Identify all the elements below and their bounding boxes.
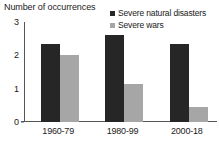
legend-swatch-severe-natural-disasters (110, 11, 115, 16)
x-tick-label: 1980-99 (88, 126, 152, 136)
bar-group (88, 22, 152, 122)
x-axis-labels: 1960-791980-992000-18 (24, 126, 217, 136)
legend-item-severe-natural-disasters: Severe natural disasters (110, 9, 206, 18)
bar (60, 55, 79, 122)
bar (41, 44, 60, 122)
x-tick-label: 1960-79 (24, 126, 88, 136)
bar (105, 35, 124, 122)
x-tick-label: 2000-18 (153, 126, 217, 136)
bar (170, 44, 189, 122)
bar-group (24, 22, 88, 122)
x-tick-label-text: 1960-79 (42, 126, 74, 136)
plot-area: 0123 (24, 22, 217, 122)
bar (124, 84, 143, 122)
x-tick-label-text: 2000-18 (171, 126, 203, 136)
bar-group (153, 22, 217, 122)
bar (189, 107, 208, 122)
y-tick-label: 2 (14, 50, 19, 60)
bar-chart: Number of occurrences Severe natural dis… (0, 0, 219, 142)
y-tick-label: 3 (14, 17, 19, 27)
x-tick-label-text: 1980-99 (107, 126, 139, 136)
y-axis-title: Number of occurrences (4, 2, 95, 12)
bar-groups (24, 22, 217, 122)
y-tick-label: 0 (14, 117, 19, 127)
y-tick-label: 1 (14, 84, 19, 94)
legend-label-severe-natural-disasters: Severe natural disasters (118, 9, 206, 18)
